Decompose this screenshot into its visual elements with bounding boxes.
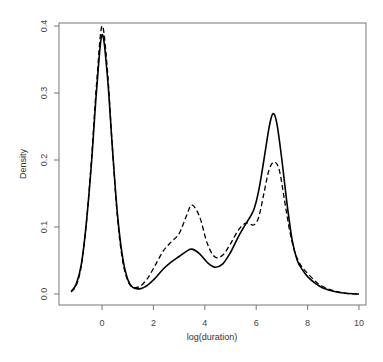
x-tick-label: 4 [202,318,207,328]
density-chart: 0246810 0.00.10.20.30.4 log(duration) De… [0,0,383,362]
series-dashed-line [71,26,359,294]
x-tick-label: 8 [305,318,310,328]
y-tick-label: 0.4 [39,20,49,33]
x-tick-label: 6 [254,318,259,328]
x-axis-label: log(duration) [187,332,238,342]
y-tick-label: 0.0 [39,288,49,301]
y-axis-label: Density [18,148,28,179]
x-tick-label: 10 [354,318,364,328]
x-tick-label: 0 [99,318,104,328]
plot-frame [59,23,366,305]
y-axis: 0.00.10.20.30.4 [39,20,59,301]
y-tick-label: 0.2 [39,154,49,167]
series-solid-line [71,35,359,294]
y-tick-label: 0.1 [39,221,49,234]
x-tick-label: 2 [151,318,156,328]
x-axis: 0246810 [99,305,364,328]
y-tick-label: 0.3 [39,87,49,100]
series-layer [71,26,359,294]
